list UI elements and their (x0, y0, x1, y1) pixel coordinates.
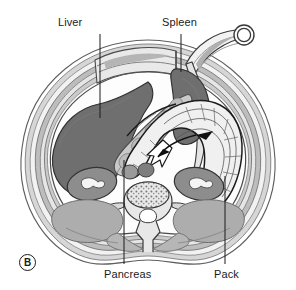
label-pancreas: Pancreas (104, 268, 151, 280)
figure-panel: Liver Spleen Pancreas Pack B (0, 0, 296, 290)
anatomy-illustration (0, 0, 296, 290)
label-pack: Pack (214, 268, 239, 280)
panel-letter-badge: B (19, 254, 36, 271)
label-liver: Liver (58, 16, 82, 28)
label-spleen: Spleen (162, 16, 197, 28)
